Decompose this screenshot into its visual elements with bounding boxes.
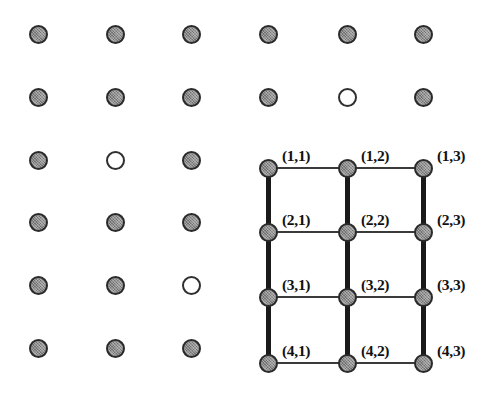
horizontal-bond [268, 296, 347, 298]
filled-site [182, 88, 201, 107]
filled-site [338, 288, 357, 307]
empty-site [182, 276, 201, 295]
filled-site [29, 151, 48, 170]
filled-site [338, 354, 357, 373]
empty-site [338, 88, 357, 107]
filled-site [29, 88, 48, 107]
filled-site [29, 25, 48, 44]
filled-site [259, 354, 278, 373]
node-label: (4,3) [437, 343, 465, 359]
filled-site [182, 213, 201, 232]
filled-site [414, 223, 433, 242]
filled-site [259, 159, 278, 178]
node-label: (3,3) [437, 277, 465, 293]
filled-site [259, 25, 278, 44]
node-label: (3,1) [282, 277, 310, 293]
lattice-figure: (1,1)(1,2)(1,3)(2,1)(2,2)(2,3)(3,1)(3,2)… [0, 0, 496, 395]
filled-site [414, 288, 433, 307]
filled-site [338, 25, 357, 44]
node-label: (3,2) [361, 277, 389, 293]
filled-site [29, 276, 48, 295]
horizontal-bond [268, 167, 347, 169]
filled-site [106, 213, 125, 232]
horizontal-bond [347, 362, 423, 364]
horizontal-bond [347, 296, 423, 298]
filled-site [259, 288, 278, 307]
filled-site [414, 354, 433, 373]
filled-site [29, 339, 48, 358]
filled-site [106, 88, 125, 107]
filled-site [338, 223, 357, 242]
node-label: (2,3) [437, 212, 465, 228]
filled-site [259, 223, 278, 242]
filled-site [414, 88, 433, 107]
filled-site [259, 88, 278, 107]
horizontal-bond [347, 231, 423, 233]
filled-site [106, 339, 125, 358]
filled-site [106, 276, 125, 295]
node-label: (1,3) [437, 148, 465, 164]
empty-site [106, 151, 125, 170]
filled-site [414, 25, 433, 44]
horizontal-bond [268, 231, 347, 233]
node-label: (2,1) [282, 212, 310, 228]
node-label: (4,2) [361, 343, 389, 359]
node-label: (1,1) [282, 148, 310, 164]
filled-site [106, 25, 125, 44]
horizontal-bond [347, 167, 423, 169]
filled-site [182, 151, 201, 170]
filled-site [338, 159, 357, 178]
filled-site [29, 213, 48, 232]
node-label: (4,1) [282, 343, 310, 359]
filled-site [182, 25, 201, 44]
node-label: (1,2) [361, 148, 389, 164]
horizontal-bond [268, 362, 347, 364]
filled-site [182, 339, 201, 358]
node-label: (2,2) [361, 212, 389, 228]
filled-site [414, 159, 433, 178]
